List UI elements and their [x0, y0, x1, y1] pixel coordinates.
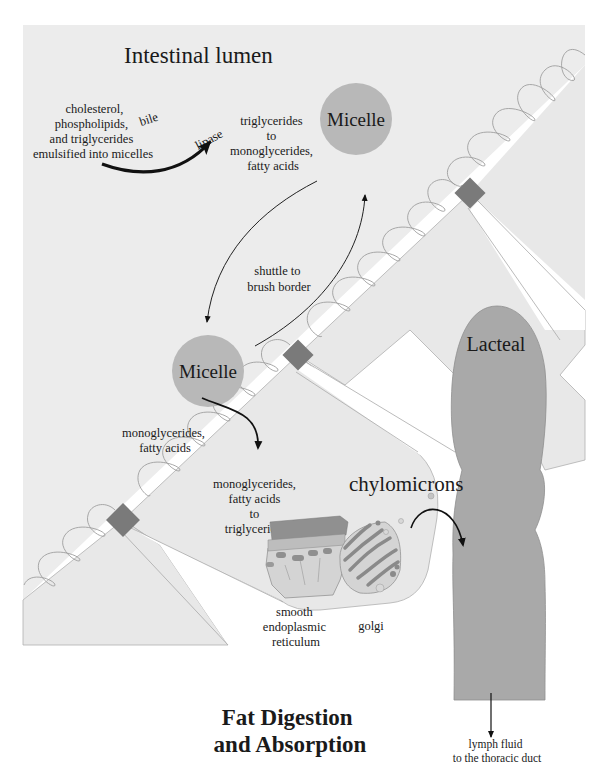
intestinal-lumen-label: Intestinal lumen [124, 43, 273, 68]
chylomicrons-label: chylomicrons [349, 472, 463, 496]
golgi-label: golgi [358, 619, 384, 633]
ser-label: smooth endoplasmic reticulum [263, 605, 329, 649]
chylomicron-particle [428, 493, 434, 499]
micelle-top-label: Micelle [327, 109, 385, 130]
micelle-bottom-label: Micelle [179, 361, 237, 382]
lacteal-label: Lacteal [467, 333, 526, 355]
lacteal [451, 306, 546, 700]
figure-caption-box [0, 754, 599, 764]
smooth-er-organelle [266, 516, 348, 598]
fat-digestion-diagram: Intestinal lumen cholesterol, phospholip… [0, 0, 599, 764]
